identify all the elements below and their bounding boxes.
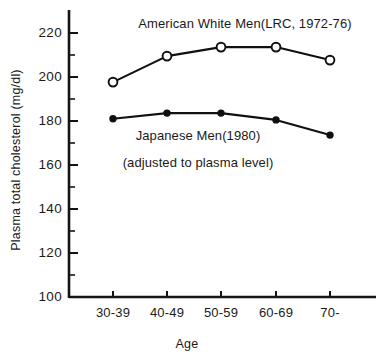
data-point (272, 43, 281, 52)
annotation-adjusted-note: (adjusted to plasma level) (123, 155, 274, 170)
annotation-american-white-men: American White Men(LRC, 1972-76) (138, 16, 351, 31)
y-tick-label-100: 100 (39, 289, 62, 304)
y-axis-major-ticks (69, 33, 78, 297)
data-point (163, 52, 172, 61)
y-tick-label-120: 120 (39, 245, 62, 260)
x-tick-label-50-59: 50-59 (204, 305, 238, 320)
x-tick-label-70-plus: 70- (320, 305, 339, 320)
series-markers-american-white-men (109, 43, 335, 87)
data-point (217, 43, 226, 52)
y-axis-title: Plasma total cholesterol (mg/dl) (9, 69, 23, 250)
x-tick-label-60-69: 60-69 (259, 305, 293, 320)
x-axis-title: Age (176, 337, 199, 351)
x-tick-label-30-39: 30-39 (96, 305, 130, 320)
data-point (273, 117, 279, 123)
x-tick-label-40-49: 40-49 (150, 305, 184, 320)
data-point (326, 56, 335, 65)
line-chart: 220 200 180 160 140 120 100 30-39 40-49 … (0, 0, 383, 355)
data-point (327, 132, 333, 138)
chart-page: 220 200 180 160 140 120 100 30-39 40-49 … (0, 0, 383, 355)
data-point (164, 110, 170, 116)
annotation-japanese-men: Japanese Men(1980) (136, 128, 261, 143)
y-tick-label-220: 220 (39, 25, 62, 40)
y-tick-label-180: 180 (39, 113, 62, 128)
y-tick-label-160: 160 (39, 157, 62, 172)
data-point (109, 78, 118, 87)
data-point (110, 116, 116, 122)
y-tick-label-140: 140 (39, 201, 62, 216)
data-point (218, 110, 224, 116)
y-tick-label-200: 200 (39, 69, 62, 84)
